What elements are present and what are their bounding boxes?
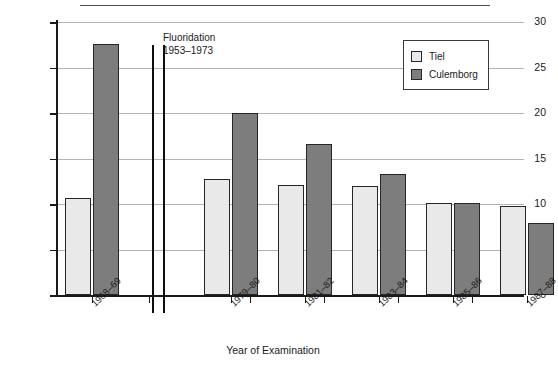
legend-swatch-tiel-icon: [411, 51, 422, 62]
bar-tiel-1979-80: [204, 179, 230, 295]
gridline: [57, 159, 524, 160]
fluoridation-annotation-line1: Fluoridation: [163, 31, 215, 44]
fluoridation-annotation: Fluoridation 1953–1973: [163, 31, 215, 57]
gridline: [57, 113, 524, 114]
x-axis-title: Year of Examination: [0, 344, 546, 356]
x-axis-boundary-tick: [398, 296, 399, 303]
legend: Tiel Culemborg: [403, 40, 489, 90]
fluoridation-line-start: [152, 45, 154, 313]
x-axis-boundary-tick: [472, 296, 473, 303]
top-rule: [80, 5, 490, 6]
x-axis-boundary-tick: [149, 296, 150, 303]
legend-item-culemborg: Culemborg: [411, 65, 478, 83]
bar-tiel-1981-82: [278, 185, 304, 295]
legend-label-culemborg: Culemborg: [429, 69, 478, 80]
bar-culemborg-1968-69: [93, 44, 119, 295]
legend-label-tiel: Tiel: [429, 51, 445, 62]
legend-item-tiel: Tiel: [411, 47, 478, 65]
fluoridation-line-end: [163, 45, 165, 313]
bar-tiel-1968-69: [65, 198, 91, 295]
y-axis-line: [56, 20, 58, 297]
bar-culemborg-1981-82: [306, 144, 332, 295]
fluoridation-annotation-line2: 1953–1973: [163, 44, 215, 57]
bar-culemborg-1979-80: [232, 113, 258, 295]
bar-tiel-1983-84: [352, 186, 378, 295]
gridline: [57, 22, 524, 23]
x-axis-boundary-tick: [324, 296, 325, 303]
bar-tiel-1985-86: [426, 203, 452, 295]
x-axis-boundary-tick: [250, 296, 251, 303]
bar-tiel-1987-88: [500, 206, 526, 295]
legend-swatch-culemborg-icon: [411, 69, 422, 80]
